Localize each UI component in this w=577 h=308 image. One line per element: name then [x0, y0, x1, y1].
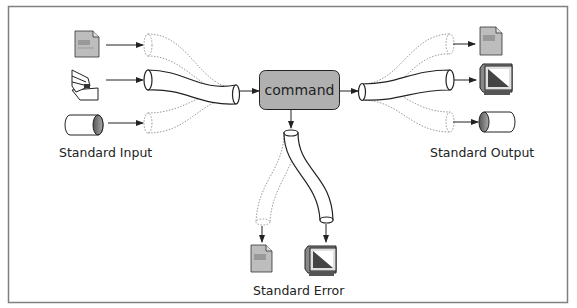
stdout-dotted-pipe-3-end: [446, 112, 454, 132]
output-document-icon: [480, 27, 502, 55]
standard-output-label: Standard Output: [430, 145, 534, 160]
input-pipe-cylinder-icon: [65, 115, 103, 135]
output-monitor-icon: [480, 64, 512, 95]
stderr-pipe: [284, 130, 333, 223]
standard-input-label: Standard Input: [59, 145, 152, 160]
stderr-dotted-pipe-end: [256, 219, 270, 225]
input-keyboard-hand-icon: [72, 70, 98, 100]
output-pipe-cylinder-icon: [479, 112, 515, 132]
command-box: command: [260, 71, 340, 110]
stdin-dotted-pipe-1-end: [144, 34, 152, 56]
stdout-pipe: [359, 70, 455, 101]
error-monitor-icon: [305, 246, 336, 276]
input-document-icon: [75, 31, 99, 57]
command-label: command: [265, 82, 335, 98]
stdout-dotted-pipe-1-end: [446, 34, 454, 54]
diagram-canvas: command: [0, 0, 577, 308]
stdin-dotted-pipe-3-end: [144, 113, 152, 133]
error-document-icon: [251, 245, 272, 272]
standard-error-label: Standard Error: [253, 283, 345, 298]
